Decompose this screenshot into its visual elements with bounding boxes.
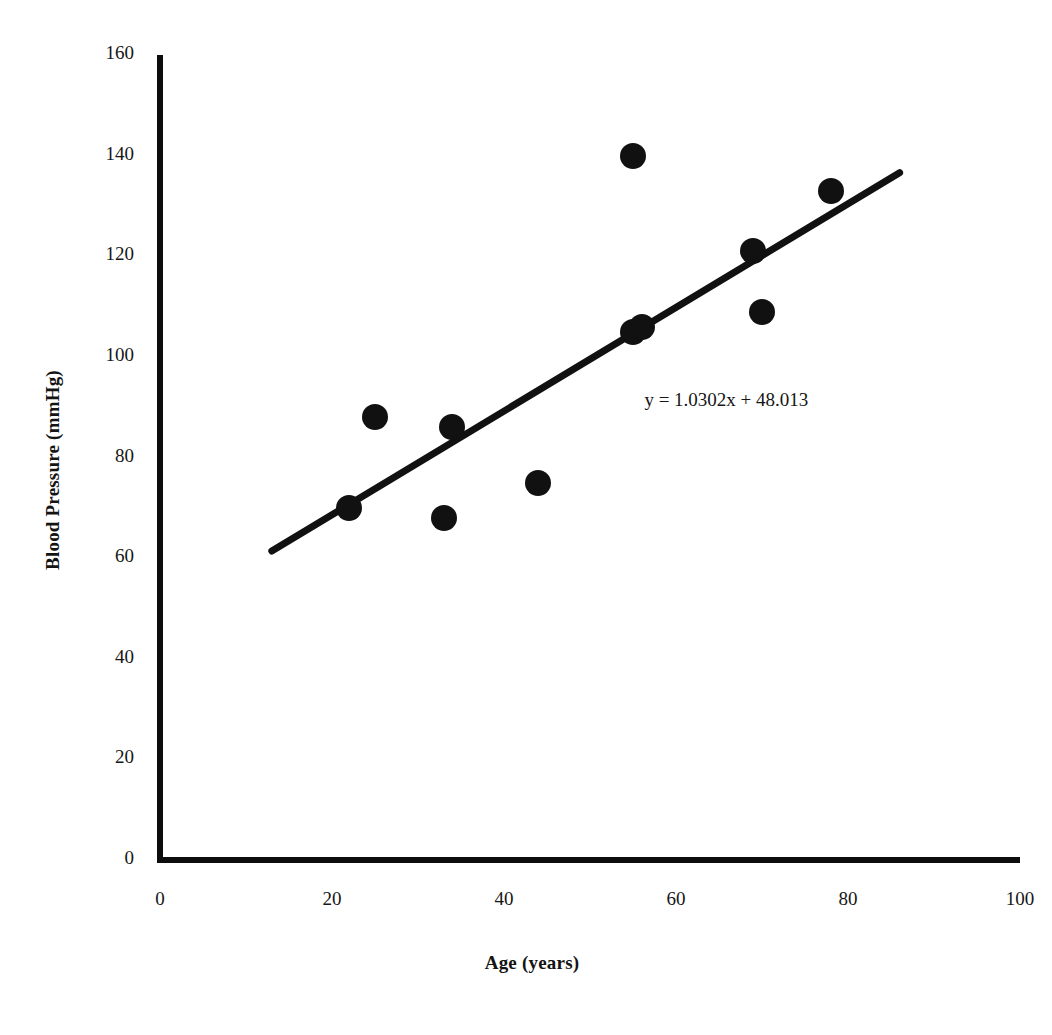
regression-equation-label: y = 1.0302x + 48.013 (644, 389, 808, 411)
plot-area (0, 0, 1052, 1035)
data-point (525, 470, 551, 496)
data-point (620, 143, 646, 169)
data-point (336, 495, 362, 521)
data-point (749, 299, 775, 325)
scatter-chart: Blood Pressure (mmHg) Age (years) 020406… (0, 0, 1052, 1035)
data-point (431, 505, 457, 531)
data-point (818, 178, 844, 204)
data-point (629, 314, 655, 340)
trendline (0, 0, 1052, 1035)
